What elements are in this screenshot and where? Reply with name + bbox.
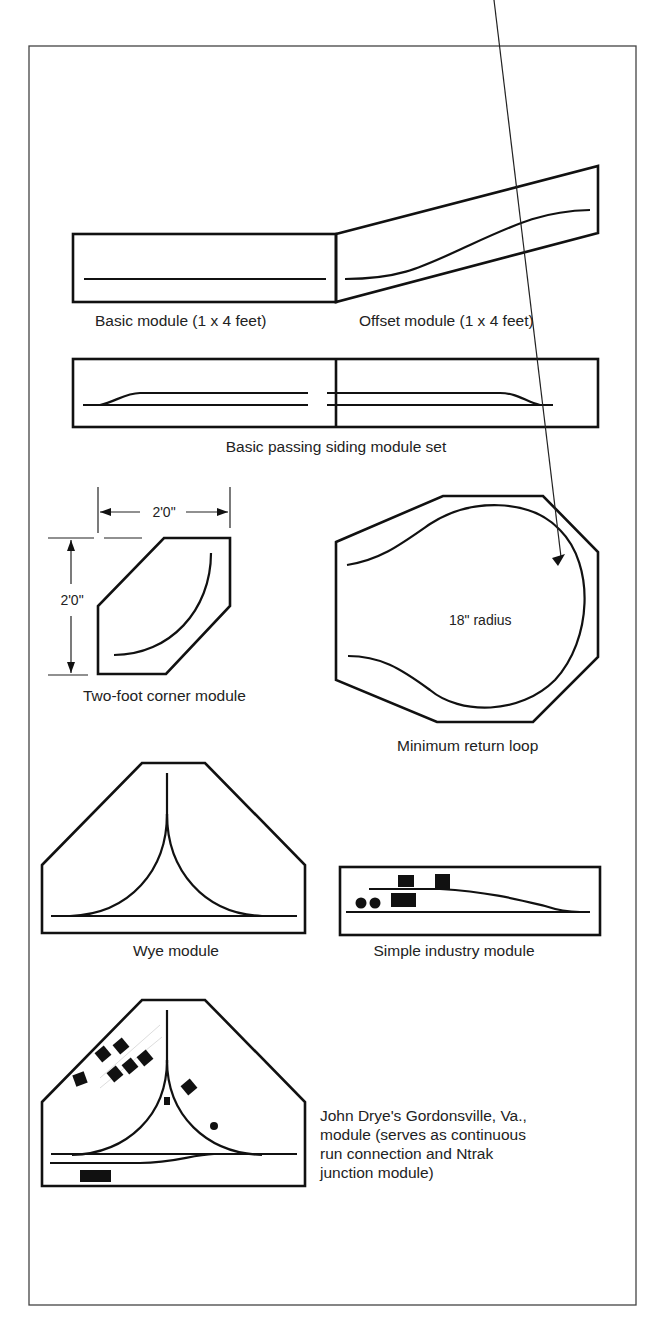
offset-module-board	[336, 166, 598, 302]
arrow-right-icon	[217, 508, 228, 516]
building-icon	[181, 1079, 198, 1096]
building-icon	[95, 1046, 112, 1063]
gordonsville-caption-line: John Drye's Gordonsville, Va.,	[320, 1107, 527, 1124]
basic-module-caption: Basic module (1 x 4 feet)	[95, 312, 266, 329]
building-icon	[72, 1071, 87, 1086]
building-icon	[398, 875, 414, 887]
offset-module-caption: Offset module (1 x 4 feet)	[359, 312, 534, 329]
tank-icon	[356, 898, 367, 909]
return-loop-track	[347, 505, 585, 707]
wye-right-leg	[167, 814, 262, 916]
gordonsville-module-board	[42, 1000, 305, 1186]
corner-module: 2'0" 2'0"	[48, 487, 230, 675]
building-icon	[113, 1038, 130, 1055]
arrow-left-icon	[100, 508, 111, 516]
building-icon	[122, 1058, 139, 1075]
gordonsville-caption: John Drye's Gordonsville, Va., module (s…	[319, 1107, 527, 1181]
building-icon	[164, 1097, 170, 1105]
building-icon	[137, 1050, 154, 1067]
offset-module	[336, 166, 598, 302]
return-loop-module: 18" radius	[336, 0, 598, 722]
basic-module	[73, 234, 336, 302]
tank-icon	[210, 1122, 218, 1130]
building-icon	[80, 1170, 111, 1182]
radius-label: 18" radius	[449, 612, 512, 628]
gordonsville-caption-line: run connection and Ntrak	[320, 1145, 493, 1162]
tank-icon	[370, 898, 381, 909]
arrow-up-icon	[67, 540, 75, 551]
gordonsville-right-leg	[167, 1060, 262, 1155]
wye-module-caption: Wye module	[133, 942, 219, 959]
corner-height-label: 2'0"	[60, 592, 83, 608]
gordonsville-module	[42, 1000, 305, 1186]
arrow-down-icon	[67, 662, 75, 673]
corner-module-track	[114, 553, 211, 655]
building-icon	[391, 893, 416, 907]
gordonsville-caption-line: junction module)	[319, 1164, 434, 1181]
passing-siding-module-set	[73, 359, 598, 427]
module-diagram: Basic module (1 x 4 feet) Offset module …	[0, 0, 668, 1323]
basic-module-board	[73, 234, 336, 302]
corner-module-caption: Two-foot corner module	[83, 687, 246, 704]
building-icon	[435, 874, 450, 889]
industry-module-caption: Simple industry module	[373, 942, 534, 959]
return-loop-caption: Minimum return loop	[397, 737, 538, 754]
radius-pointer	[494, 0, 561, 557]
passing-siding-siding-left	[100, 393, 308, 405]
passing-siding-caption: Basic passing siding module set	[226, 438, 447, 455]
industry-module	[340, 867, 600, 935]
corner-width-label: 2'0"	[152, 504, 175, 520]
wye-module	[42, 763, 305, 933]
wye-left-leg	[70, 814, 167, 916]
gordonsville-caption-line: module (serves as continuous	[320, 1126, 526, 1143]
wye-module-board	[42, 763, 305, 933]
passing-siding-siding-right	[327, 393, 540, 405]
arrow-head-icon	[552, 554, 565, 566]
